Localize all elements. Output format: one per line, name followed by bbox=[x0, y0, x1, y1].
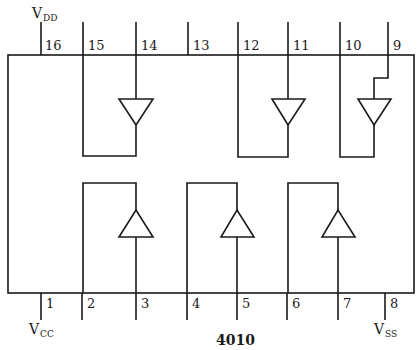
pin-13-label: 13 bbox=[193, 38, 210, 53]
ic-package-outline bbox=[8, 55, 414, 293]
pin-15-label: 15 bbox=[88, 38, 105, 53]
part-number-label: 4010 bbox=[216, 332, 255, 348]
buffer-5-to-4 bbox=[187, 183, 254, 293]
pin-16-label: 16 bbox=[45, 38, 62, 53]
bottom-pin-row: 1 2 3 4 5 6 7 8 bbox=[41, 293, 398, 320]
buffer-7-to-6 bbox=[288, 183, 355, 293]
vdd-label: V DD bbox=[31, 5, 57, 23]
buffer-14-to-15 bbox=[83, 55, 153, 156]
ic-pinout-diagram: 16 15 14 13 12 11 10 9 1 2 3 4 5 6 7 8 bbox=[0, 0, 420, 350]
pin-7-label: 7 bbox=[343, 296, 351, 311]
pin-8-label: 8 bbox=[390, 296, 398, 311]
pin-4-label: 4 bbox=[192, 296, 200, 311]
pin-14-label: 14 bbox=[141, 38, 158, 53]
vdd-sub: DD bbox=[43, 13, 57, 23]
buffer-output-wire bbox=[288, 183, 338, 293]
vss-label: V SS bbox=[373, 321, 397, 339]
buffer-11-to-12 bbox=[238, 55, 305, 157]
pin-3-label: 3 bbox=[141, 296, 149, 311]
pin-9-label: 9 bbox=[393, 38, 401, 53]
buffer-triangle-icon bbox=[221, 210, 254, 237]
vcc-sub: CC bbox=[40, 329, 54, 339]
buffer-output-wire bbox=[83, 183, 136, 293]
buffer-triangle-icon bbox=[119, 99, 153, 125]
buffer-3-to-2 bbox=[83, 183, 153, 293]
vdd-main: V bbox=[31, 5, 43, 21]
buffer-triangle-icon bbox=[119, 210, 153, 237]
buffer-input-wire bbox=[374, 55, 388, 99]
pin-2-label: 2 bbox=[87, 296, 95, 311]
pin-10-label: 10 bbox=[345, 38, 362, 53]
pin-12-label: 12 bbox=[243, 38, 260, 53]
pin-1-label: 1 bbox=[46, 296, 54, 311]
pin-6-label: 6 bbox=[292, 296, 300, 311]
vcc-label: V CC bbox=[28, 321, 54, 339]
top-pin-row: 16 15 14 13 12 11 10 9 bbox=[41, 22, 401, 55]
buffer-triangle-icon bbox=[358, 99, 391, 125]
buffer-output-wire bbox=[187, 183, 237, 293]
vcc-main: V bbox=[28, 321, 40, 337]
pin-11-label: 11 bbox=[293, 38, 310, 53]
vss-sub: SS bbox=[385, 329, 397, 339]
buffer-triangle-icon bbox=[322, 210, 355, 237]
pin-5-label: 5 bbox=[242, 296, 250, 311]
buffer-9-to-10 bbox=[340, 55, 391, 157]
buffer-triangle-icon bbox=[272, 99, 305, 125]
vss-main: V bbox=[373, 321, 385, 337]
